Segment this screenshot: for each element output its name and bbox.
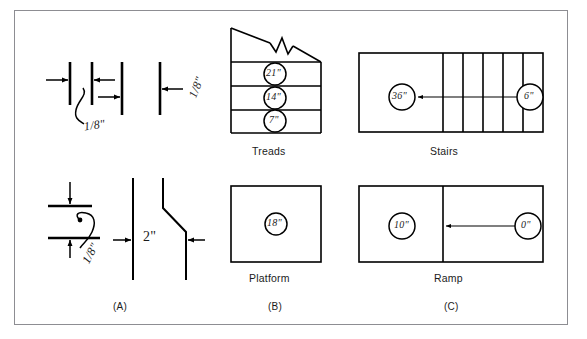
ramp-label: Ramp <box>434 272 463 284</box>
dim-label-two-inch: 2" <box>143 229 156 245</box>
platform-label: Platform <box>249 272 290 284</box>
figure-border <box>14 10 568 325</box>
dim-label-eighth-1: 1/8" <box>83 117 106 135</box>
panel-caption-a: (A) <box>113 301 127 312</box>
ramp-callout-right: 0" <box>521 219 531 230</box>
stairs-label: Stairs <box>430 145 458 157</box>
tread-callout-14: 14" <box>266 91 281 102</box>
figure-root: 1/8" 1/8" 1/8" 2" 21" 14" 7" 18" 36" 6" … <box>0 0 587 339</box>
ramp-callout-left: 10" <box>394 219 409 230</box>
tread-callout-21: 21" <box>266 67 281 78</box>
platform-callout-18: 18" <box>267 217 282 228</box>
stairs-callout-right: 6" <box>524 90 534 101</box>
treads-label: Treads <box>252 145 286 157</box>
tread-callout-7: 7" <box>269 114 279 125</box>
panel-caption-c: (C) <box>444 301 458 312</box>
panel-caption-b: (B) <box>268 301 282 312</box>
stairs-callout-left: 36" <box>392 90 407 101</box>
